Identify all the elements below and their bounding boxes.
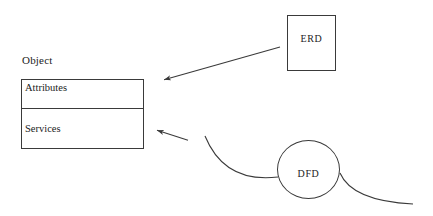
erd-label: ERD xyxy=(301,33,323,44)
erd-box: ERD xyxy=(287,15,336,71)
erd-to-object-arrow xyxy=(164,47,280,80)
dfd-right-curve xyxy=(340,173,413,204)
dfd-left-curve xyxy=(205,136,278,178)
services-label: Services xyxy=(25,123,61,135)
object-label: Object xyxy=(22,54,53,66)
services-compartment: Services xyxy=(22,109,143,148)
attributes-compartment: Attributes xyxy=(22,80,143,109)
dfd-label: DFD xyxy=(298,168,320,179)
dfd-circle: DFD xyxy=(277,140,340,199)
attributes-label: Attributes xyxy=(25,82,67,93)
dfd-to-services-arrow xyxy=(157,130,188,140)
object-box: Attributes Services xyxy=(21,79,144,149)
diagram-canvas: Object Attributes Services ERD DFD xyxy=(0,0,433,216)
